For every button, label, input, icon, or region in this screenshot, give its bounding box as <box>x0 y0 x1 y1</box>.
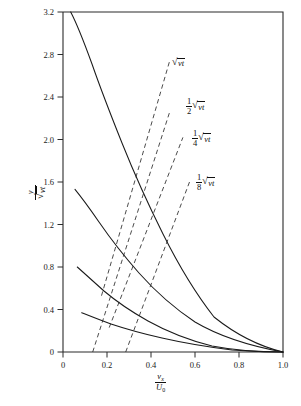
x-tick-label-0-2: 0.2 <box>96 361 118 370</box>
radical-sign-glyph: √ <box>202 176 208 186</box>
radical-sign-glyph: √ <box>192 100 198 110</box>
curve-profile-3 <box>77 267 283 352</box>
y-tick-label-2-0: 2.0 <box>32 136 54 145</box>
x-axis-ticks <box>63 352 283 358</box>
annotation-label-half-sqrt-vt: 1 2 √ vt <box>186 97 205 115</box>
radical-sign-glyph: √ <box>198 132 204 142</box>
y-tick-label-3-2: 3.2 <box>32 8 54 17</box>
x-axis-label-fraction: vx U0 <box>155 372 166 393</box>
y-axis-label: y √ vt <box>26 185 46 200</box>
line-half-sqrt-vt <box>93 112 170 352</box>
sqrt-icon: √ vt <box>198 133 211 144</box>
y-tick-label-1-2: 1.2 <box>32 221 54 230</box>
y-tick-label-2-4: 2.4 <box>32 93 54 102</box>
annotation-label-quarter-sqrt-vt: 1 4 √ vt <box>192 129 211 147</box>
curve-profile-4 <box>82 313 283 352</box>
curve-profile-2 <box>75 189 283 352</box>
y-tick-label-2-8: 2.8 <box>32 51 54 60</box>
figure-container: 3.2 2.8 2.4 2.0 1.6 1.2 0.8 0.4 0 0 0.2 … <box>0 0 301 406</box>
x-tick-label-0-8: 0.8 <box>228 361 250 370</box>
y-tick-label-0-4: 0.4 <box>32 306 54 315</box>
annotation-label-eighth-sqrt-vt: 1 8 √ vt <box>196 173 215 191</box>
x-axis-label-denominator: U0 <box>155 383 166 393</box>
sqrt-icon: √ vt <box>36 186 47 199</box>
x-tick-label-0: 0 <box>55 361 71 370</box>
radical-sign-glyph: √ <box>172 57 178 67</box>
sqrt-icon: √ vt <box>192 101 205 112</box>
y-tick-label-0: 0 <box>32 348 54 357</box>
sqrt-icon: √ vt <box>172 57 185 68</box>
radical-sign-glyph: √ <box>35 194 45 200</box>
x-tick-label-0-4: 0.4 <box>140 361 162 370</box>
y-tick-label-0-8: 0.8 <box>32 263 54 272</box>
y-axis-ticks <box>58 12 64 352</box>
annotation-label-sqrt-vt: √ vt <box>172 57 185 68</box>
y-axis-label-fraction: y √ vt <box>26 185 46 200</box>
sqrt-icon: √ vt <box>202 177 215 188</box>
x-tick-label-1-0: 1.0 <box>272 361 294 370</box>
y-axis-label-denominator: √ vt <box>36 185 47 200</box>
x-tick-label-0-6: 0.6 <box>184 361 206 370</box>
x-axis-label: vx U0 <box>155 372 166 393</box>
velocity-profile-chart <box>0 0 301 406</box>
